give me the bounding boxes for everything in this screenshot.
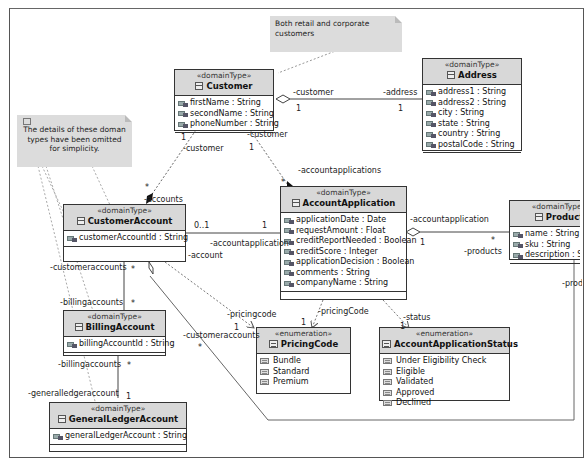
- class-header: «domainType» AccountApplication: [281, 187, 406, 213]
- role-label: -customer: [247, 130, 288, 139]
- class-address[interactable]: «domainType» Address address1 : Stringad…: [422, 58, 522, 151]
- literal-icon: [383, 369, 392, 375]
- stereotype: «domainType»: [283, 188, 404, 198]
- mult-label: 1: [398, 104, 403, 113]
- class-name: Product: [546, 212, 580, 222]
- attribute-row[interactable]: firstName : String: [178, 98, 271, 109]
- note-omitted[interactable]: The details of these doman types have be…: [17, 115, 132, 167]
- attribute-row[interactable]: billingAccountId : String: [67, 339, 163, 350]
- attribute-row[interactable]: state : String: [426, 119, 519, 130]
- attribute-list: name : Stringsku : Stringdescription : S…: [510, 227, 580, 264]
- class-icon: [58, 415, 66, 423]
- class-customer[interactable]: «domainType» Customer firstName : String…: [174, 69, 274, 131]
- literal-icon: [260, 358, 269, 364]
- attribute-row[interactable]: companyName : String: [284, 278, 404, 289]
- mult-label: *: [131, 265, 135, 274]
- mult-label: *: [145, 183, 149, 192]
- attribute-row[interactable]: secondName : String: [178, 109, 271, 120]
- role-label: -accounts: [144, 195, 183, 204]
- stereotype: «enumeration»: [259, 329, 348, 339]
- note-customers[interactable]: Both retail and corporate customers: [270, 16, 402, 52]
- class-billingaccount[interactable]: «domainType» BillingAccount billingAccou…: [63, 310, 166, 356]
- class-name: Customer: [206, 81, 252, 91]
- class-icon: [77, 217, 85, 225]
- attribute-row[interactable]: phoneNumber : String: [178, 119, 271, 130]
- enum-literal[interactable]: Under Eligibility Check: [383, 356, 507, 367]
- class-name: BillingAccount: [86, 322, 155, 332]
- class-header: «domainType» GeneralLedgerAccount: [50, 403, 186, 429]
- attribute-row[interactable]: country : String: [426, 129, 519, 140]
- class-generalledgeraccount[interactable]: «domainType» GeneralLedgerAccount genera…: [49, 402, 187, 452]
- attribute-icon: [513, 231, 523, 238]
- enum-accountapplicationstatus[interactable]: «enumeration» AccountApplicationStatus U…: [379, 327, 510, 401]
- enum-pricingcode[interactable]: «enumeration» PricingCode BundleStandard…: [256, 327, 351, 394]
- attribute-row[interactable]: name : String: [513, 229, 580, 240]
- literal-text: Eligible: [396, 367, 425, 378]
- attribute-list: applicationDate : DaterequestAmount : Fl…: [281, 213, 406, 292]
- attribute-row[interactable]: comments : String: [284, 268, 404, 279]
- attribute-text: applicationDate : Date: [296, 215, 386, 226]
- attribute-text: requestAmount : Float: [296, 226, 385, 237]
- mult-label: 0..1: [194, 221, 209, 230]
- class-product[interactable]: «domainType» Product name : Stringsku : …: [509, 200, 580, 260]
- literal-icon: [260, 369, 269, 375]
- mult-label: *: [198, 343, 202, 352]
- class-customeraccount[interactable]: «domainType» CustomerAccount customerAcc…: [63, 204, 186, 262]
- attribute-row[interactable]: customerAccountId : String: [67, 233, 183, 244]
- attribute-icon: [67, 235, 77, 242]
- class-accountapplication[interactable]: «domainType» AccountApplication applicat…: [280, 186, 407, 300]
- enum-literal[interactable]: Declined: [383, 398, 507, 409]
- class-header: «domainType» Customer: [175, 70, 273, 96]
- class-header: «enumeration» AccountApplicationStatus: [380, 328, 509, 354]
- class-name: CustomerAccount: [88, 216, 173, 226]
- class-header: «enumeration» PricingCode: [257, 328, 350, 354]
- attribute-row[interactable]: address1 : String: [426, 87, 519, 98]
- class-icon: [447, 71, 455, 79]
- attribute-row[interactable]: address2 : String: [426, 98, 519, 109]
- mult-label: *: [491, 236, 495, 245]
- role-label: -accountapplication: [410, 215, 489, 224]
- attribute-icon: [284, 259, 294, 266]
- attribute-icon: [284, 280, 294, 287]
- attribute-icon: [426, 89, 436, 96]
- assoc-customer-customeraccount[interactable]: [148, 130, 196, 200]
- stereotype: «domainType»: [177, 71, 271, 81]
- class-header: «domainType» BillingAccount: [64, 311, 165, 337]
- literal-icon: [383, 390, 392, 396]
- attribute-text: creditScore : Integer: [296, 247, 378, 258]
- mult-label: 1: [249, 143, 254, 152]
- attribute-text: customerAccountId : String: [79, 233, 188, 244]
- enumeration-icon: [269, 340, 278, 348]
- enum-literal[interactable]: Premium: [260, 377, 348, 388]
- mult-label: 1: [301, 318, 306, 327]
- literal-icon: [260, 379, 269, 385]
- role-label: -pricingcode: [227, 310, 277, 319]
- attribute-row[interactable]: creditScore : Integer: [284, 247, 404, 258]
- attribute-text: name : String: [525, 229, 579, 240]
- attribute-row[interactable]: creditReportNeeded : Boolean: [284, 236, 404, 247]
- attribute-row[interactable]: postalCode : String: [426, 140, 519, 151]
- attribute-text: state : String: [438, 119, 490, 130]
- attribute-row[interactable]: applicationDate : Date: [284, 215, 404, 226]
- note-text: Both retail and corporate customers: [275, 19, 369, 38]
- attribute-text: applicationDecision : Boolean: [296, 257, 414, 268]
- role-label: -billingaccounts: [60, 298, 123, 307]
- enum-literal[interactable]: Approved: [383, 388, 507, 399]
- enum-literal[interactable]: Standard: [260, 367, 348, 378]
- literal-text: Approved: [396, 388, 434, 399]
- attribute-row[interactable]: applicationDecision : Boolean: [284, 257, 404, 268]
- enum-literal[interactable]: Validated: [383, 377, 507, 388]
- attribute-row[interactable]: requestAmount : Float: [284, 226, 404, 237]
- attribute-icon: [284, 227, 294, 234]
- role-label: -billingaccounts: [58, 360, 121, 369]
- enum-literal[interactable]: Bundle: [260, 356, 348, 367]
- attribute-row[interactable]: sku : String: [513, 240, 580, 251]
- enum-literal[interactable]: Eligible: [383, 367, 507, 378]
- attribute-row[interactable]: description : String: [513, 250, 580, 261]
- note-text: The details of these doman types have be…: [23, 125, 126, 153]
- aggregation-diamond-customer: [276, 95, 290, 103]
- attribute-row[interactable]: generalLedgerAccount : String: [53, 431, 184, 442]
- attribute-icon: [513, 252, 523, 259]
- literal-text: Standard: [273, 367, 309, 378]
- attribute-row[interactable]: city : String: [426, 108, 519, 119]
